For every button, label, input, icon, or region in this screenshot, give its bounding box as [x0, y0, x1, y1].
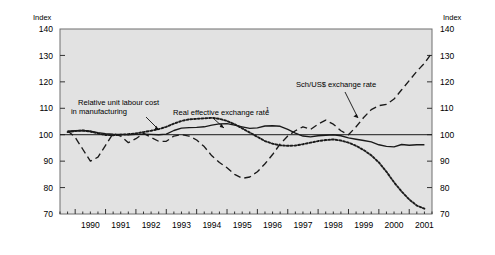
x-tick-label: 1994 [202, 220, 221, 230]
y-tick-label-left: 90 [44, 156, 54, 166]
plot-area-background [60, 29, 432, 214]
x-tick-label: 1996 [263, 220, 282, 230]
x-tick-label: 1991 [111, 220, 130, 230]
y-tick-label-right: 130 [440, 51, 454, 61]
x-tick-label: 1993 [172, 220, 191, 230]
y-tick-label-right: 100 [440, 130, 454, 140]
annotation-rulc-line1: Relative unit labour cost [78, 98, 160, 107]
y-tick-label-left: 110 [39, 103, 53, 113]
y-tick-label-right: 140 [440, 24, 454, 34]
annotation-reer-footnote-marker: 1 [266, 106, 269, 112]
x-tick-label: 1992 [142, 220, 161, 230]
y-tick-label-right: 90 [440, 156, 450, 166]
x-tick-label: 1990 [81, 220, 100, 230]
y-axis-unit-right: Index [443, 13, 462, 22]
x-tick-label: 2000 [385, 220, 404, 230]
annotation-reer-label: Real effective exchange rate [173, 108, 269, 117]
x-tick-label: 1997 [293, 220, 312, 230]
x-tick-label: 2001 [415, 220, 434, 230]
y-tick-label-left: 130 [39, 51, 53, 61]
annotation-rulc-line2: in manufacturing [71, 107, 127, 116]
y-tick-label-right: 80 [440, 183, 450, 193]
x-tick-label: 1995 [233, 220, 252, 230]
chart-figure: 708090100110120130140 708090100110120130… [0, 0, 495, 255]
y-tick-label-left: 140 [39, 24, 53, 34]
y-axis-unit-left: Index [33, 13, 52, 22]
y-tick-label-right: 120 [440, 77, 454, 87]
annotation-schusd-label: Sch/US$ exchange rate [296, 80, 376, 89]
y-tick-label-left: 70 [44, 209, 54, 219]
x-tick-label: 1999 [354, 220, 373, 230]
y-tick-label-left: 100 [39, 130, 53, 140]
x-tick-label: 1998 [324, 220, 343, 230]
y-tick-label-right: 110 [440, 103, 454, 113]
y-tick-label-left: 80 [44, 183, 54, 193]
y-tick-label-left: 120 [39, 77, 53, 87]
y-tick-label-right: 70 [440, 209, 450, 219]
index-line-chart: 708090100110120130140 708090100110120130… [0, 0, 495, 255]
